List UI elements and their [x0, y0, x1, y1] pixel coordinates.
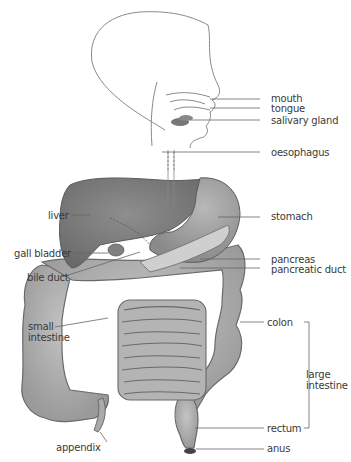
label-oesophagus: oesophagus: [271, 147, 329, 158]
label-gall-bladder: gall bladder: [14, 248, 71, 259]
label-bile-duct: bile duct: [27, 272, 69, 283]
label-colon: colon: [267, 317, 293, 328]
label-tongue: tongue: [271, 103, 305, 114]
label-appendix: appendix: [56, 442, 101, 453]
label-rectum: rectum: [267, 423, 301, 434]
label-large-intestine-2: intestine: [306, 380, 348, 391]
gall-bladder-shape: [108, 244, 124, 256]
label-liver: liver: [48, 210, 69, 221]
digestive-illustration: [0, 0, 351, 462]
label-anus: anus: [267, 443, 290, 454]
label-small-intestine-2: intestine: [28, 332, 70, 343]
anus-shape: [184, 448, 196, 454]
head-outline: [91, 12, 219, 170]
label-small-intestine-1: small: [28, 321, 54, 332]
small-intestine-shape: [118, 300, 206, 400]
label-large-intestine-1: large: [306, 369, 330, 380]
label-stomach: stomach: [271, 211, 313, 222]
digestive-system-diagram: mouth tongue salivary gland oesophagus s…: [0, 0, 351, 462]
rectum-shape: [175, 395, 198, 448]
label-salivary-gland: salivary gland: [271, 115, 338, 126]
label-pancreatic-duct: pancreatic duct: [271, 264, 346, 275]
